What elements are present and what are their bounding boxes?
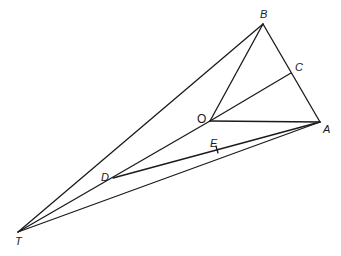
label-D: D [101, 171, 109, 183]
segment-BO [210, 24, 263, 121]
segment-OA [210, 121, 320, 122]
segment-TA [18, 122, 320, 232]
label-E: E [210, 137, 218, 149]
label-T: T [15, 235, 23, 247]
segment-OC [210, 73, 291, 121]
label-A: A [322, 123, 330, 135]
label-B: B [260, 8, 267, 20]
segment-TO [18, 121, 210, 232]
label-C: C [295, 61, 303, 73]
segment-TB [18, 24, 263, 232]
label-O: O [197, 112, 206, 126]
geometry-diagram: B C O A E D T [0, 0, 341, 256]
